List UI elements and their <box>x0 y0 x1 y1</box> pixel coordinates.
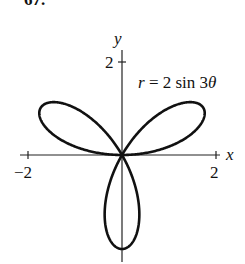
x-axis-label: x <box>225 145 234 164</box>
equation-theta: θ <box>208 73 216 92</box>
equation-label: r = 2 sin 3θ <box>138 73 216 92</box>
y-tick-label-2: 2 <box>105 53 114 72</box>
polar-plot: x y −2 2 2 r = 2 sin 3θ <box>0 0 245 264</box>
x-tick-label-neg2: −2 <box>14 163 32 182</box>
x-tick-label-2: 2 <box>210 163 219 182</box>
y-axis-label: y <box>112 29 122 48</box>
equation-body: = 2 sin 3 <box>145 73 208 92</box>
